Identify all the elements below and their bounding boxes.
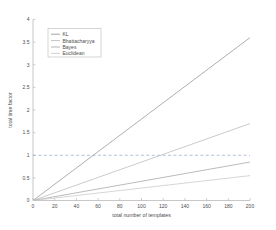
y-tick-label: 2 xyxy=(27,107,30,113)
x-tick-label: 160 xyxy=(202,203,211,209)
x-tick-label: 120 xyxy=(159,203,168,209)
x-tick-label: 200 xyxy=(246,203,255,209)
y-tick-label: 4 xyxy=(27,16,30,22)
legend-label-bayes: Bayes xyxy=(63,44,77,50)
series-line-euclidean xyxy=(33,176,250,201)
x-axis-ticks: 020406080100120140160180200 xyxy=(32,198,255,209)
chart-figure: 00.511.522.533.54 0204060801001201401601… xyxy=(0,0,276,230)
y-axis-label: total time factor xyxy=(7,92,13,128)
y-tick-label: 0 xyxy=(27,197,30,203)
y-tick-label: 1 xyxy=(27,152,30,158)
x-axis-label: total number of templates xyxy=(112,212,171,218)
legend-label-bhattacharyya: Bhattacharyya xyxy=(63,38,95,44)
x-tick-label: 140 xyxy=(181,203,190,209)
series-lines xyxy=(33,38,250,201)
series-line-bhattacharyya xyxy=(33,124,250,201)
legend-label-euclidean: Euclidean xyxy=(63,50,85,56)
y-tick-label: 1.5 xyxy=(23,129,30,135)
y-tick-label: 0.5 xyxy=(23,175,30,181)
x-tick-label: 60 xyxy=(95,203,101,209)
line-chart: 00.511.522.533.54 0204060801001201401601… xyxy=(0,0,276,230)
x-tick-label: 100 xyxy=(137,203,146,209)
y-axis-ticks: 00.511.522.533.54 xyxy=(23,16,36,203)
y-tick-label: 3.5 xyxy=(23,39,30,45)
legend[interactable]: KLBhattacharyyaBayesEuclidean xyxy=(48,29,101,58)
y-tick-label: 3 xyxy=(27,62,30,68)
legend-label-kl: KL xyxy=(63,31,69,37)
x-tick-label: 0 xyxy=(32,203,35,209)
x-tick-label: 80 xyxy=(117,203,123,209)
series-line-bayes xyxy=(33,162,250,200)
y-tick-label: 2.5 xyxy=(23,84,30,90)
x-tick-label: 20 xyxy=(52,203,58,209)
x-tick-label: 180 xyxy=(224,203,233,209)
x-tick-label: 40 xyxy=(74,203,80,209)
series-line-kl xyxy=(33,38,250,201)
